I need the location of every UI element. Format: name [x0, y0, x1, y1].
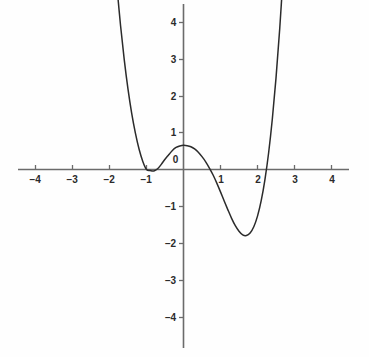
y-tick-label--2: −2: [165, 239, 176, 249]
x-tick-label--3: −3: [66, 175, 77, 185]
x-tick-label-3: 3: [292, 175, 297, 185]
y-tick-label-3: 3: [171, 55, 176, 65]
x-tick-label--2: −2: [103, 175, 114, 185]
y-tick-label--1: −1: [165, 202, 176, 212]
x-tick-label-2: 2: [255, 175, 260, 185]
y-tick-label-1: 1: [171, 128, 176, 138]
x-tick-label-1: 1: [218, 175, 223, 185]
y-tick-label-4: 4: [171, 18, 176, 28]
y-tick-label--4: −4: [165, 313, 176, 323]
x-tick-label--1: −1: [140, 175, 151, 185]
function-curve: [117, 0, 284, 236]
y-tick-label-2: 2: [171, 92, 176, 102]
x-tick-label-4: 4: [329, 175, 334, 185]
plot-canvas: [0, 0, 369, 357]
function-plot-figure: −4 −3 −2 −1 1 2 3 4 4 3 2 1 −1 −2 −3 −4 …: [0, 0, 369, 357]
y-tick-label--3: −3: [165, 276, 176, 286]
origin-label: 0: [173, 155, 178, 165]
x-tick-label--4: −4: [29, 175, 40, 185]
